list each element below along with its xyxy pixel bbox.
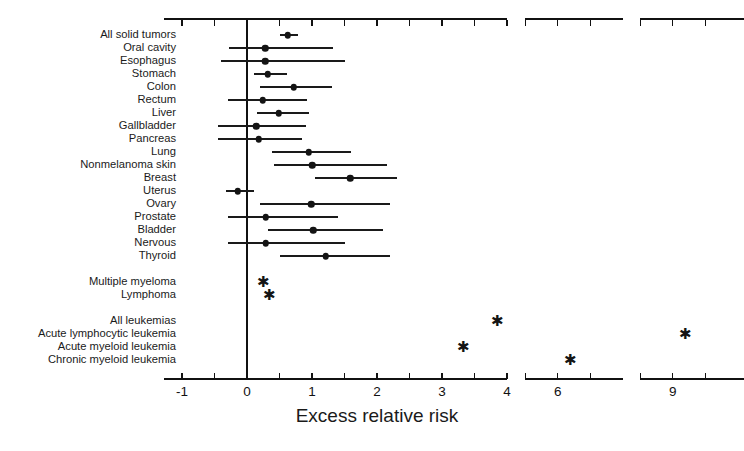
point-estimate-marker	[255, 136, 262, 143]
x-tick-bottom-10	[506, 373, 507, 379]
category-label: Stomach	[132, 67, 176, 80]
x-axis-title: Excess relative risk	[296, 405, 459, 427]
category-label: Rectum	[137, 93, 176, 106]
point-estimate-marker	[347, 175, 354, 182]
x-tick-bottom-0	[181, 373, 182, 379]
x-tick-top-10	[506, 20, 507, 26]
plot-area: -10123469✱✱✱✱✱✱	[176, 0, 648, 451]
x-tick-label-1: 1	[308, 384, 316, 399]
x-tick-top-1	[214, 20, 215, 26]
category-label: Prostate	[134, 210, 176, 223]
category-label: Acute myeloid leukemia	[58, 340, 176, 353]
x-tick-bottom-8	[441, 373, 442, 379]
point-estimate-marker	[263, 214, 270, 221]
category-label: Uterus	[143, 184, 176, 197]
category-label-column: All solid tumorsOral cavityEsophagusStom…	[0, 0, 176, 451]
category-label: Nonmelanoma skin	[80, 158, 176, 171]
category-label: Bladder	[137, 223, 176, 236]
point-estimate-star-marker: ✱	[457, 339, 470, 354]
x-tick-label-2: 2	[373, 384, 381, 399]
x-tick-label-3: 3	[438, 384, 446, 399]
x-tick-bottom-12	[525, 373, 526, 379]
x-tick-bottom-9	[474, 373, 475, 379]
category-label: Lymphoma	[121, 288, 176, 301]
category-label: Colon	[147, 80, 176, 93]
x-tick-label-neg1: -1	[176, 384, 188, 399]
point-estimate-marker	[308, 201, 315, 208]
point-estimate-marker	[291, 84, 298, 91]
point-estimate-marker	[263, 240, 270, 247]
category-label: Multiple myeloma	[89, 275, 176, 288]
category-label: Lung	[151, 145, 176, 158]
point-estimate-marker	[310, 227, 317, 234]
point-estimate-star-marker: ✱	[679, 326, 692, 341]
x-tick-top-4	[311, 20, 312, 26]
top-axis-segment-1	[164, 18, 507, 20]
bottom-axis-segment-1	[164, 378, 507, 380]
x-tick-top-7	[409, 20, 410, 26]
category-label: Nervous	[134, 236, 176, 249]
confidence-interval-line	[260, 203, 390, 205]
point-estimate-marker	[306, 149, 313, 156]
category-label: Breast	[144, 171, 176, 184]
x-tick-top-0	[181, 20, 182, 26]
x-tick-bottom-3	[279, 373, 280, 379]
x-tick-bottom-13	[590, 373, 591, 379]
point-estimate-marker	[285, 32, 292, 39]
x-tick-bottom-7	[409, 373, 410, 379]
point-estimate-marker	[235, 188, 242, 195]
category-label: All leukemias	[110, 314, 176, 327]
x-tick-bottom-1	[214, 373, 215, 379]
point-estimate-marker	[265, 71, 272, 78]
confidence-interval-line	[228, 242, 345, 244]
x-tick-top-15	[640, 20, 641, 26]
confidence-interval-line	[221, 60, 345, 62]
category-label: Esophagus	[120, 54, 176, 67]
x-tick-bottom-16	[705, 373, 706, 379]
x-tick-top-11	[557, 20, 558, 26]
point-estimate-star-marker: ✱	[564, 352, 577, 367]
bottom-axis-segment-2	[525, 378, 623, 380]
top-axis-segment-3	[640, 18, 744, 20]
x-tick-bottom-14	[672, 373, 673, 379]
confidence-interval-line	[229, 47, 333, 49]
point-estimate-marker	[262, 45, 269, 52]
x-tick-label-6: 6	[554, 384, 562, 399]
x-tick-top-2	[246, 20, 247, 26]
confidence-interval-line	[228, 99, 307, 101]
x-tick-bottom-6	[376, 373, 377, 379]
category-label: Thyroid	[139, 249, 176, 262]
point-estimate-star-marker: ✱	[263, 287, 276, 302]
category-label: Acute lymphocytic leukemia	[38, 327, 176, 340]
bottom-axis-segment-3	[640, 378, 744, 380]
x-tick-label-9: 9	[669, 384, 677, 399]
x-tick-top-5	[344, 20, 345, 26]
confidence-interval-line	[274, 164, 386, 166]
x-tick-top-9	[474, 20, 475, 26]
x-tick-bottom-11	[557, 373, 558, 379]
x-tick-bottom-4	[311, 373, 312, 379]
x-tick-top-8	[441, 20, 442, 26]
category-label: Pancreas	[129, 132, 176, 145]
point-estimate-marker	[253, 123, 260, 130]
x-tick-top-6	[376, 20, 377, 26]
confidence-interval-line	[280, 255, 390, 257]
x-tick-top-12	[525, 20, 526, 26]
x-tick-top-16	[705, 20, 706, 26]
x-tick-top-13	[590, 20, 591, 26]
point-estimate-marker	[276, 110, 283, 117]
x-tick-bottom-2	[246, 373, 247, 379]
top-axis-segment-2	[525, 18, 623, 20]
x-tick-top-14	[672, 20, 673, 26]
x-tick-top-3	[279, 20, 280, 26]
confidence-interval-line	[315, 177, 396, 179]
point-estimate-star-marker: ✱	[491, 313, 504, 328]
x-tick-bottom-5	[344, 373, 345, 379]
point-estimate-marker	[259, 97, 266, 104]
category-label: Liver	[152, 106, 176, 119]
category-label: All solid tumors	[100, 28, 176, 41]
x-tick-bottom-15	[640, 373, 641, 379]
confidence-interval-line	[228, 216, 339, 218]
category-label: Gallbladder	[119, 119, 176, 132]
